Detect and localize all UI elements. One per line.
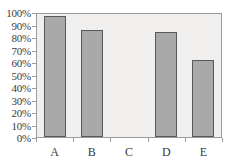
y-axis-tick-label: 70%	[11, 45, 31, 56]
bar-b[interactable]	[81, 30, 103, 138]
y-axis-tick-label: 30%	[11, 95, 31, 106]
x-axis-tick-mark	[185, 138, 186, 142]
bar-slot-e	[184, 14, 221, 137]
plot-area-frame	[36, 13, 222, 138]
bar-d[interactable]	[155, 32, 177, 137]
x-axis-label-a: A	[36, 145, 73, 165]
x-axis-category-labels: ABCDE	[36, 145, 222, 165]
y-axis-tick-label: 10%	[11, 120, 31, 131]
y-axis-tick-label: 80%	[11, 33, 31, 44]
y-axis-tick-labels: 100%90%80%70%60%50%40%30%20%10%0%	[0, 9, 33, 138]
y-axis-tick-label: 20%	[11, 108, 31, 119]
bar-chart: 100%90%80%70%60%50%40%30%20%10%0% ABCDE	[0, 0, 234, 168]
x-axis-tick-mark	[73, 138, 74, 142]
y-axis-tick-label: 60%	[11, 58, 31, 69]
y-axis-tick-label: 0%	[17, 133, 31, 144]
x-axis-label-c: C	[110, 145, 147, 165]
y-axis-tick-label: 100%	[6, 8, 31, 19]
bar-slot-c	[111, 14, 148, 137]
bar-slot-a	[37, 14, 74, 137]
x-axis-tick-mark	[222, 138, 223, 142]
x-axis-tick-marks	[36, 138, 222, 142]
x-axis-label-d: D	[148, 145, 185, 165]
bar-a[interactable]	[44, 16, 66, 137]
bar-slot-b	[74, 14, 111, 137]
y-axis-tick-label: 40%	[11, 83, 31, 94]
y-axis-tick-label: 90%	[11, 20, 31, 31]
bars-layer	[37, 14, 221, 137]
x-axis-tick-mark	[110, 138, 111, 142]
bar-slot-d	[147, 14, 184, 137]
x-axis-label-e: E	[185, 145, 222, 165]
x-axis-tick-mark	[36, 138, 37, 142]
plot-area	[37, 14, 221, 137]
y-axis-tick-label: 50%	[11, 70, 31, 81]
x-axis-label-b: B	[73, 145, 110, 165]
bar-e[interactable]	[192, 60, 214, 138]
x-axis-tick-mark	[148, 138, 149, 142]
